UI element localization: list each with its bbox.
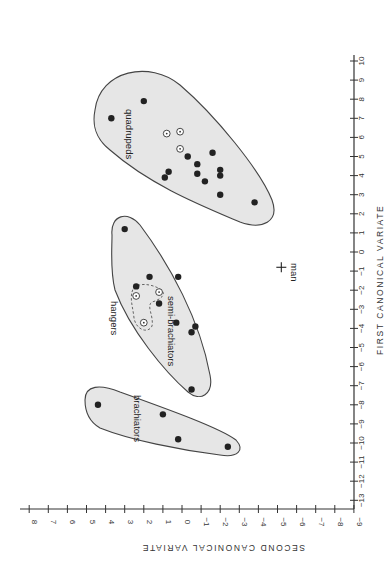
brachiators-region xyxy=(85,387,240,456)
data-point-filled xyxy=(141,98,147,104)
data-point-open-center xyxy=(135,295,137,297)
y-axis: 876543210−1−2−3−4−5−6−7−8−9 SECOND CANON… xyxy=(20,505,364,553)
y-tick-label: −1 xyxy=(202,517,211,527)
y-tick-label: −7 xyxy=(317,517,326,527)
y-tick-label: 0 xyxy=(183,520,192,525)
data-point-filled xyxy=(202,178,208,184)
hangers-label: hangers xyxy=(109,301,120,336)
data-point-filled xyxy=(133,283,139,289)
data-point-filled xyxy=(192,323,198,329)
x-axis-ticks: −13−12−11−10−9−8−7−6−5−4−3−2−10123456789… xyxy=(350,56,366,507)
x-tick-label: 3 xyxy=(357,192,366,197)
data-point-open-center xyxy=(143,322,145,324)
y-tick-label: −8 xyxy=(336,517,345,527)
semi-brachiators-region xyxy=(112,216,211,396)
x-tick-label: −9 xyxy=(357,419,366,429)
data-point-filled xyxy=(156,300,162,306)
data-point-filled xyxy=(122,226,128,232)
x-tick-label: −12 xyxy=(357,474,366,488)
x-tick-label: −13 xyxy=(357,493,366,507)
y-tick-label: 7 xyxy=(49,520,58,525)
data-point-filled xyxy=(251,199,257,205)
data-point-filled xyxy=(188,386,194,392)
data-point-filled xyxy=(146,274,152,280)
scatter-chart: brachiators semi-brachiators hangers qua… xyxy=(0,0,389,582)
data-point-open-center xyxy=(179,148,181,150)
data-point-filled xyxy=(194,161,200,167)
y-tick-label: −6 xyxy=(298,517,307,527)
y-tick-label: −4 xyxy=(259,517,268,527)
data-point-filled xyxy=(217,172,223,178)
data-point-filled xyxy=(95,402,101,408)
y-tick-label: 4 xyxy=(107,520,116,525)
data-point-open-center xyxy=(166,133,168,135)
man-label: man xyxy=(289,263,300,281)
data-point-filled xyxy=(165,169,171,175)
x-tick-label: 0 xyxy=(357,249,366,254)
y-tick-label: 8 xyxy=(30,520,39,525)
data-point-filled xyxy=(173,319,179,325)
x-tick-label: 9 xyxy=(357,77,366,82)
x-tick-label: −7 xyxy=(357,381,366,391)
semi-brachiators-label: semi-brachiators xyxy=(166,296,177,366)
y-tick-label: −5 xyxy=(279,517,288,527)
x-tick-label: −1 xyxy=(357,266,366,276)
data-point-filled xyxy=(217,192,223,198)
y-tick-label: −9 xyxy=(355,517,364,527)
data-point-filled xyxy=(225,444,231,450)
y-tick-label: 6 xyxy=(68,520,77,525)
y-tick-label: 3 xyxy=(126,520,135,525)
x-tick-label: 8 xyxy=(357,96,366,101)
x-tick-label: −10 xyxy=(357,436,366,450)
y-tick-label: −2 xyxy=(221,517,230,527)
y-tick-label: −3 xyxy=(240,517,249,527)
x-tick-label: 5 xyxy=(357,154,366,159)
quadrupeds-region xyxy=(94,71,274,225)
y-tick-label: 1 xyxy=(164,520,173,525)
data-point-filled xyxy=(175,436,181,442)
x-tick-label: −4 xyxy=(357,323,366,333)
y-tick-label: 5 xyxy=(88,520,97,525)
x-tick-label: 1 xyxy=(357,230,366,235)
data-point-filled xyxy=(108,115,114,121)
data-point-filled xyxy=(160,411,166,417)
y-axis-ticks: 876543210−1−2−3−4−5−6−7−8−9 xyxy=(29,505,364,527)
x-tick-label: −2 xyxy=(357,285,366,295)
x-tick-label: −3 xyxy=(357,304,366,314)
x-tick-label: 4 xyxy=(357,173,366,178)
x-tick-label: 7 xyxy=(357,116,366,121)
x-tick-label: −8 xyxy=(357,400,366,410)
data-point-filled xyxy=(162,174,168,180)
x-tick-label: 6 xyxy=(357,135,366,140)
x-axis: −13−12−11−10−9−8−7−6−5−4−3−2−10123456789… xyxy=(350,55,385,509)
data-point-filled xyxy=(209,149,215,155)
x-tick-label: −6 xyxy=(357,361,366,371)
data-point-filled xyxy=(188,329,194,335)
brachiators-label: brachiators xyxy=(132,395,143,442)
data-point-open-center xyxy=(179,131,181,133)
x-axis-title: FIRST CANONICAL VARIATE xyxy=(375,205,385,355)
y-tick-label: 2 xyxy=(145,520,154,525)
data-point-filled xyxy=(217,167,223,173)
data-point-filled xyxy=(175,274,181,280)
x-tick-label: −11 xyxy=(357,455,366,469)
data-point-open-center xyxy=(158,291,160,293)
data-point-filled xyxy=(185,153,191,159)
x-tick-label: 2 xyxy=(357,211,366,216)
quadrupeds-label: quadrupeds xyxy=(124,109,135,159)
y-axis-title: SECOND CANONICAL VARIATE xyxy=(141,543,305,553)
x-tick-label: 10 xyxy=(357,56,366,65)
data-point-filled xyxy=(194,170,200,176)
x-tick-label: −5 xyxy=(357,342,366,352)
